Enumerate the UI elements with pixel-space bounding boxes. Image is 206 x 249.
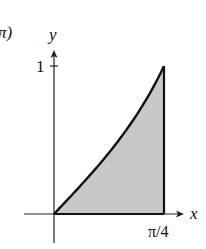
corner-fragment-label: π) xyxy=(0,23,13,42)
x-axis-label: x xyxy=(189,204,198,223)
shaded-area xyxy=(54,66,164,214)
y-axis-label: y xyxy=(47,25,57,44)
x-tick-label-pi-over-4: π/4 xyxy=(148,223,169,240)
y-tick-label-1: 1 xyxy=(36,57,45,76)
chart-canvas: π) y 1 x π/4 xyxy=(0,0,206,249)
